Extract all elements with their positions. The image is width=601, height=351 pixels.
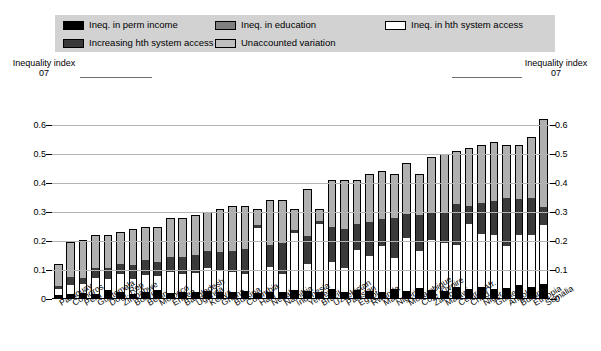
legend-item-label: Ineq. in hth system access [411, 20, 523, 30]
y-tick-label: 0.2 [555, 237, 581, 246]
legend-item[interactable]: Increasing hth system access [63, 35, 214, 51]
legend-column-2: Ineq. in educationUnaccounted variation [215, 15, 336, 51]
bar[interactable] [303, 189, 312, 299]
bar[interactable] [166, 218, 175, 299]
bar[interactable] [378, 171, 387, 299]
legend-swatch-black [63, 21, 84, 30]
gridline [52, 212, 550, 213]
bar-segment [466, 224, 473, 290]
bar[interactable] [228, 206, 237, 299]
axis-header-right: Inequality index 07 [520, 58, 592, 78]
gridline [52, 270, 550, 271]
y-tick-mark [46, 183, 52, 184]
bar-segment [478, 203, 485, 234]
bar-segment [217, 210, 224, 252]
bar[interactable] [340, 180, 349, 299]
bar[interactable] [278, 200, 287, 299]
legend-item[interactable]: Ineq. in education [215, 17, 336, 33]
axis-header-left-line1: Inequality index [8, 58, 80, 68]
chart-legend: Ineq. in perm incomeIncreasing hth syste… [55, 15, 555, 52]
gridline [52, 241, 550, 242]
bar-segment [341, 229, 348, 267]
y-tick-mark [46, 241, 52, 242]
bar-segment [80, 241, 87, 279]
y-tick-label: 0.5 [20, 150, 46, 159]
legend-item-label: Ineq. in education [241, 20, 316, 30]
gridline [52, 183, 550, 184]
bar-group [52, 96, 550, 299]
y-tick-mark [46, 212, 52, 213]
bar[interactable] [490, 142, 499, 299]
y-tick-label: 0.1 [20, 266, 46, 275]
y-tick-label: 0.1 [555, 266, 581, 275]
bar-segment [341, 268, 348, 292]
bar-segment [167, 219, 174, 257]
chart-page: Ineq. in perm incomeIncreasing hth syste… [0, 0, 601, 351]
bar-segment [329, 181, 336, 227]
bar[interactable] [328, 180, 337, 299]
bar-segment [67, 243, 74, 277]
bar-segment [478, 234, 485, 287]
legend-item-label: Unaccounted variation [241, 38, 336, 48]
bar-segment [279, 201, 286, 242]
bar-segment [267, 245, 274, 267]
bar-segment [67, 277, 74, 285]
y-tick-mark [550, 183, 556, 184]
axis-header-left: Inequality index 07 [8, 58, 80, 78]
bar-segment [516, 199, 523, 235]
bar-segment [192, 216, 199, 255]
gridline [52, 125, 550, 126]
y-tick-mark [550, 270, 556, 271]
bar-segment [354, 181, 361, 224]
axis-header-left-line2: 07 [8, 68, 80, 78]
legend-item-label: Increasing hth system access [89, 38, 214, 48]
legend-item-label: Ineq. in perm income [89, 20, 178, 30]
legend-column-3: Ineq. in hth system access [385, 15, 523, 33]
bar[interactable] [527, 137, 536, 299]
gridline [52, 154, 550, 155]
legend-swatch-dark-gray [63, 39, 84, 48]
y-tick-label: 0.4 [555, 179, 581, 188]
bar[interactable] [477, 145, 486, 299]
legend-item[interactable]: Ineq. in perm income [63, 17, 214, 33]
legend-item[interactable]: Ineq. in hth system access [385, 17, 523, 33]
bar-segment [179, 219, 186, 257]
y-tick-mark [550, 241, 556, 242]
bar-segment [466, 149, 473, 206]
bar-segment [379, 246, 386, 292]
bar[interactable] [465, 148, 474, 299]
bar[interactable] [415, 174, 424, 299]
bar-segment [540, 225, 547, 284]
bar[interactable] [290, 209, 299, 299]
bar-segment [428, 213, 435, 240]
bar[interactable] [515, 145, 524, 299]
axis-header-right-line2: 07 [520, 68, 592, 78]
bar-segment [55, 265, 62, 286]
bar[interactable] [539, 119, 548, 299]
bar-segment [441, 212, 448, 243]
bar-segment [403, 164, 410, 214]
bar-segment [416, 175, 423, 216]
bar-segment [466, 206, 473, 223]
bar-segment [540, 120, 547, 207]
y-tick-label: 0.3 [555, 208, 581, 217]
legend-column-1: Ineq. in perm incomeIncreasing hth syste… [63, 15, 214, 51]
bar-segment [428, 158, 435, 213]
bar[interactable] [427, 157, 436, 299]
y-tick-mark [46, 154, 52, 155]
y-tick-mark [46, 270, 52, 271]
bar[interactable] [502, 145, 511, 299]
bar[interactable] [390, 174, 399, 299]
x-axis-labels: ParaguayComorosPeruGuatemalaDom. RepZimb… [52, 300, 550, 351]
bar-segment [366, 222, 373, 256]
y-tick-mark [550, 212, 556, 213]
bar-segment [204, 251, 211, 267]
plot-area [52, 96, 550, 299]
legend-item[interactable]: Unaccounted variation [215, 35, 336, 51]
legend-swatch-light-gray [215, 39, 236, 48]
axis-header-right-line1: Inequality index [520, 58, 592, 68]
y-tick-mark [46, 125, 52, 126]
bar-segment [528, 138, 535, 198]
y-tick-label: 0.4 [20, 179, 46, 188]
axis-header-right-rule [452, 77, 522, 78]
